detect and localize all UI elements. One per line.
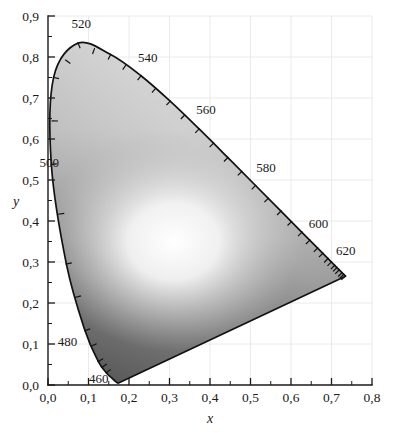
wavelength-label-500: 500 [39, 155, 59, 170]
y-tick-label: 0,1 [22, 337, 39, 352]
wavelength-label-540: 540 [138, 50, 158, 65]
y-tick-label: 0,2 [22, 296, 39, 311]
y-tick-label: 0,5 [22, 173, 39, 188]
wavelength-label-560: 560 [196, 102, 216, 117]
wavelength-label-580: 580 [256, 160, 276, 175]
y-tick-label: 0,7 [22, 91, 39, 106]
x-tick-label: 0,1 [80, 390, 97, 405]
y-tick-label: 0,3 [22, 255, 39, 270]
x-tick-label: 0,3 [161, 390, 178, 405]
x-tick-label: 0,5 [242, 390, 259, 405]
y-axis-title: y [11, 194, 20, 209]
wavelength-label-480: 480 [58, 334, 78, 349]
y-tick-label: 0,6 [22, 132, 39, 147]
y-tick-label: 0,0 [22, 378, 39, 393]
y-tick-label: 0,9 [22, 9, 39, 24]
x-tick-label: 0,4 [202, 390, 219, 405]
cie-chromaticity-diagram: 0,00,10,20,30,40,50,60,70,8 0,00,10,20,3… [0, 0, 393, 433]
x-tick-label: 0,6 [283, 390, 300, 405]
x-tick-label: 0,7 [323, 390, 340, 405]
x-tick-label: 0,2 [121, 390, 138, 405]
x-axis-tick-labels: 0,00,10,20,30,40,50,60,70,8 [40, 390, 381, 405]
wavelength-label-600: 600 [309, 216, 329, 231]
chromaticity-plot-svg: 0,00,10,20,30,40,50,60,70,8 0,00,10,20,3… [0, 0, 393, 433]
wavelength-label-520: 520 [71, 16, 91, 31]
y-tick-label: 0,8 [22, 50, 39, 65]
wavelength-label-460: 460 [89, 371, 109, 386]
y-axis-tick-labels: 0,00,10,20,30,40,50,60,70,80,9 [22, 9, 39, 393]
x-tick-label: 0,0 [40, 390, 57, 405]
wavelength-label-620: 620 [336, 243, 356, 258]
x-tick-label: 0,8 [364, 390, 381, 405]
y-axis-ticks [48, 16, 55, 385]
x-axis-title: x [206, 411, 214, 426]
gamut-fill [0, 0, 393, 433]
y-tick-label: 0,4 [22, 214, 39, 229]
